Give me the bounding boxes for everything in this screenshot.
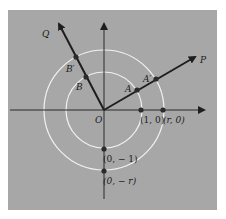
ray-p-label: P — [199, 55, 207, 65]
unit-neg-y-label: (0, − 1) — [103, 154, 138, 164]
point-b-label: B — [75, 82, 83, 92]
point-a-prime-label: A′ — [142, 74, 152, 84]
ray-q-label: Q — [42, 29, 50, 39]
point-unit-neg-y — [101, 146, 106, 151]
origin-label: O — [95, 115, 103, 125]
point-r-neg-y — [101, 168, 106, 173]
r-neg-y-label: (0, − r) — [103, 176, 137, 186]
point-a — [134, 87, 139, 92]
unit-x-label: (1, 0) — [140, 115, 164, 125]
point-r-x — [160, 107, 165, 112]
point-b-prime-label: B′ — [65, 64, 75, 74]
point-b — [83, 74, 88, 79]
point-a-prime — [153, 76, 158, 81]
point-a-label: A — [124, 84, 132, 94]
diagram-canvas: O P Q A A′ B B′ (1, 0) (r, 0) (0, − 1) (… — [0, 0, 226, 219]
point-b-prime — [73, 54, 78, 59]
r-x-label: (r, 0) — [163, 115, 185, 125]
point-unit-x — [138, 107, 143, 112]
dilation-diagram: O P Q A A′ B B′ (1, 0) (r, 0) (0, − 1) (… — [0, 0, 226, 219]
